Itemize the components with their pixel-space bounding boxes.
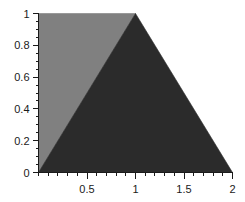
x-tick-label: 2 <box>229 183 235 195</box>
x-tick-label: 1 <box>132 183 138 195</box>
x-tick-label: 1.5 <box>176 183 191 195</box>
chart-figure: 0.511.5200.20.40.60.81 <box>0 0 245 202</box>
y-tick-label: 1 <box>23 8 29 20</box>
y-tick-label: 0.8 <box>14 39 29 51</box>
y-tick-label: 0.4 <box>14 103 29 115</box>
y-tick-label: 0.2 <box>14 135 29 147</box>
x-tick-label: 0.5 <box>79 183 94 195</box>
y-tick-label: 0.6 <box>14 71 29 83</box>
y-tick-label: 0 <box>23 167 29 179</box>
plot-svg: 0.511.5200.20.40.60.81 <box>0 0 245 202</box>
